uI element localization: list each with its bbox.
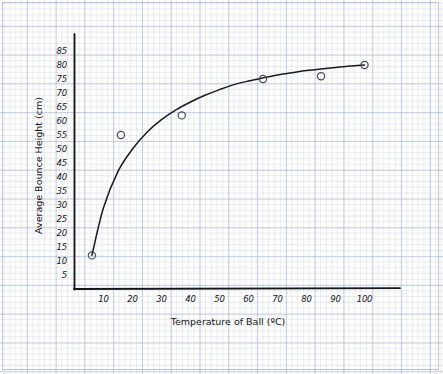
y-tick-label: 25	[45, 214, 67, 224]
data-point	[317, 73, 324, 80]
y-tick-label: 65	[45, 102, 67, 112]
x-tick-label: 30	[149, 294, 175, 304]
y-tick-label: 20	[45, 228, 67, 238]
x-tick-label: 80	[294, 294, 320, 304]
x-axis-title: Temperature of Ball (ºC)	[108, 316, 348, 327]
y-tick-label: 15	[45, 242, 67, 252]
y-tick-label: 30	[45, 200, 67, 210]
data-point	[178, 112, 185, 119]
line-of-best-fit	[92, 65, 365, 255]
x-tick-label: 10	[91, 294, 117, 304]
y-tick-label: 45	[45, 158, 67, 168]
y-tick-label: 75	[45, 74, 67, 84]
x-tick-label: 60	[236, 294, 262, 304]
y-tick-label: 50	[45, 144, 67, 154]
data-point-markers	[88, 61, 368, 259]
y-axis-title: Average Bounce Height (cm)	[33, 66, 44, 266]
y-tick-label: 60	[45, 116, 67, 126]
y-tick-label: 70	[45, 88, 67, 98]
x-tick-label: 100	[352, 294, 378, 304]
x-tick-label: 50	[207, 294, 233, 304]
x-tick-label: 90	[323, 294, 349, 304]
y-tick-label: 10	[45, 256, 67, 266]
y-tick-label: 80	[45, 60, 67, 70]
y-tick-label: 35	[45, 186, 67, 196]
y-tick-label: 5	[45, 270, 67, 280]
x-tick-label: 70	[265, 294, 291, 304]
x-tick-label: 20	[120, 294, 146, 304]
y-tick-label: 40	[45, 172, 67, 182]
data-point	[117, 131, 124, 138]
chart-page: 510152025303540455055606570758085 102030…	[0, 0, 443, 374]
x-axis-line	[74, 288, 400, 289]
y-tick-label: 55	[45, 130, 67, 140]
x-tick-label: 40	[178, 294, 204, 304]
y-tick-label: 85	[45, 46, 67, 56]
